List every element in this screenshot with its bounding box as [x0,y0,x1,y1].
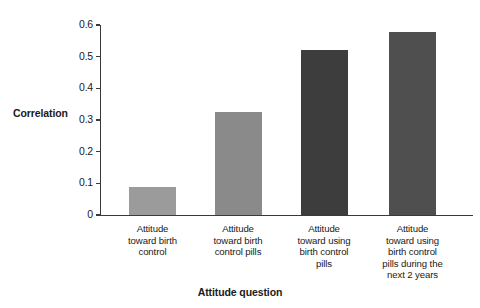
category-label-line: Attitude [107,223,199,235]
category-label-line: pills during the [367,258,459,270]
x-axis-category-label: Attitudetoward birthcontrol pills [192,223,284,258]
y-tick-mark [96,24,100,25]
bar-chart-figure: Correlation 00.10.20.30.40.50.6 Attitude… [0,0,480,308]
y-tick-label: 0.1 [0,176,93,188]
x-axis-category-label: Attitudetoward usingbirth controlpills [278,223,370,269]
category-label-line: Attitude [367,223,459,235]
x-axis-line [100,215,473,216]
y-tick-mark [96,88,100,89]
bar [301,50,348,215]
x-axis-title: Attitude question [0,286,480,298]
y-tick-mark [96,183,100,184]
y-tick-label: 0.2 [0,145,93,157]
y-tick-mark [96,119,100,120]
x-axis-category-label: Attitudetoward birthcontrol [107,223,199,258]
category-label-line: pills [278,258,370,270]
y-tick-mark [96,56,100,57]
bar [129,187,176,215]
y-tick-label: 0.4 [0,81,93,93]
category-label-line: control [107,246,199,258]
category-label-line: Attitude [192,223,284,235]
y-tick-mark [96,214,100,215]
bar [215,112,262,215]
y-tick-label: 0.6 [0,18,93,30]
category-label-line: control pills [192,246,284,258]
bars-group [101,25,473,215]
y-tick-mark [96,151,100,152]
x-axis-category-label: Attitudetoward usingbirth controlpills d… [367,223,459,281]
category-label-line: toward using [367,235,459,247]
bar [389,32,436,215]
category-label-line: Attitude [278,223,370,235]
category-label-line: toward birth [107,235,199,247]
category-label-line: birth control [278,246,370,258]
category-label-line: toward birth [192,235,284,247]
y-tick-label: 0 [0,208,93,220]
category-label-line: toward using [278,235,370,247]
category-label-line: birth control [367,246,459,258]
y-tick-label: 0.3 [0,113,93,125]
category-label-line: next 2 years [367,269,459,281]
y-tick-label: 0.5 [0,50,93,62]
